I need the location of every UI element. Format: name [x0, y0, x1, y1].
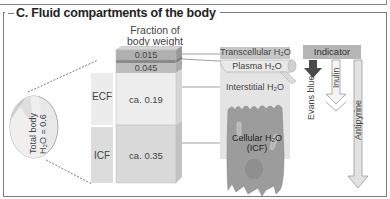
- plasma-label: Plasma H₂O: [220, 61, 294, 71]
- interstitial-label: Interstitial H₂O: [220, 82, 290, 92]
- segment-plasma-value: 0.045: [116, 63, 176, 73]
- circle-label-line2: H₂O = 0.6: [38, 113, 48, 154]
- icf-label: ICF: [91, 150, 113, 161]
- indicator-header: Indicator: [303, 45, 361, 59]
- cellular-label: Cellular H₂O (ICF): [226, 133, 288, 153]
- cellular-label-line2: (ICF): [226, 143, 288, 153]
- inulin-label: Inulin: [331, 68, 341, 88]
- segment-transcellular-value: 0.015: [116, 50, 176, 60]
- ecf-label: ECF: [91, 91, 113, 102]
- transcellular-label: Transcellular H₂O: [220, 47, 290, 57]
- evans-blue-label: Evans blue: [306, 75, 316, 120]
- circle-label-line1: Total body: [28, 113, 38, 154]
- antipyrine-label: Antipyrine: [353, 100, 363, 140]
- circle-label: Total body H₂O = 0.6: [28, 113, 48, 154]
- segment-cellular-value: ca. 0.35: [116, 150, 176, 161]
- segment-interstitial-value: ca. 0.19: [116, 94, 176, 105]
- cellular-label-line1: Cellular H₂O: [226, 133, 288, 143]
